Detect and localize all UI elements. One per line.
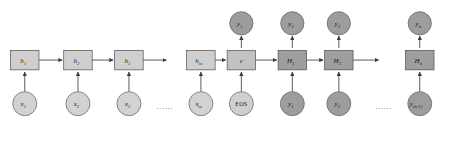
- node-eos: EOS: [229, 92, 253, 116]
- encoder-input-ellipsis: ......: [157, 102, 174, 111]
- encoder-input-layer: x1 x2 x3 xm ......: [13, 92, 213, 116]
- node-y2-output: y2: [281, 12, 304, 35]
- decoder-input-layer: EOS y1 y2 y(n-1) ......: [229, 92, 431, 116]
- decoder-output-layer: y1 y2 y3 yn: [230, 12, 432, 35]
- node-y2-input: y2: [327, 92, 351, 116]
- node-x2: x2: [66, 92, 90, 116]
- node-H2: H2: [325, 50, 353, 70]
- encoder-decoder-diagram: h1 h2 h3 hm c H1: [0, 0, 461, 166]
- node-c: c: [227, 50, 255, 70]
- node-y1-output: y1: [230, 12, 253, 35]
- node-x3: x3: [117, 92, 141, 116]
- node-y3-output: y3: [327, 12, 350, 35]
- node-H1: H1: [278, 50, 306, 70]
- node-h2: h2: [64, 50, 92, 70]
- node-yn-1-input: y(n-1): [408, 92, 432, 116]
- node-h1: h1: [10, 50, 38, 70]
- node-eos-label: EOS: [235, 101, 247, 107]
- node-y1-input: y1: [280, 92, 304, 116]
- node-yn-output: yn: [408, 12, 431, 35]
- node-Hn: Hn: [406, 50, 434, 70]
- node-h3: h3: [115, 50, 143, 70]
- node-xm: xm: [189, 92, 213, 116]
- node-x1: x1: [13, 92, 37, 116]
- figure-canvas: h1 h2 h3 hm c H1: [0, 0, 461, 166]
- decoder-input-ellipsis: ......: [375, 102, 392, 111]
- node-hm: hm: [187, 50, 215, 70]
